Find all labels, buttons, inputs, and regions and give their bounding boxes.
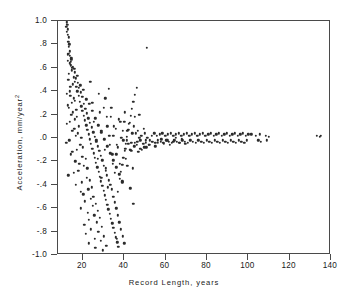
scatter-point bbox=[87, 117, 89, 119]
scatter-point bbox=[89, 179, 91, 181]
scatter-point bbox=[117, 246, 119, 248]
scatter-point bbox=[71, 83, 73, 85]
scatter-point bbox=[81, 181, 83, 183]
scatter-point bbox=[134, 132, 136, 134]
scatter-point bbox=[73, 118, 75, 120]
scatter-point bbox=[123, 150, 125, 152]
y-axis-title-text: Acceleration, mm/year bbox=[15, 98, 24, 190]
scatter-point bbox=[136, 86, 138, 88]
scatter-point bbox=[71, 130, 73, 132]
y-axis-tick-label: .8 bbox=[40, 39, 47, 48]
scatter-point bbox=[71, 102, 73, 104]
scatter-point bbox=[82, 115, 84, 117]
scatter-point bbox=[126, 165, 128, 167]
scatter-point bbox=[69, 153, 71, 155]
scatter-point bbox=[243, 141, 245, 143]
scatter-point bbox=[82, 146, 84, 148]
scatter-point bbox=[90, 186, 92, 188]
scatter-point bbox=[94, 117, 96, 119]
scatter-point bbox=[125, 158, 127, 160]
y-axis-tick bbox=[51, 160, 57, 161]
scatter-point bbox=[91, 110, 93, 112]
scatter-point bbox=[108, 134, 110, 136]
x-axis-tick-label: 20 bbox=[77, 261, 87, 270]
scatter-point bbox=[105, 244, 107, 246]
scatter-point bbox=[87, 188, 89, 190]
scatter-point bbox=[68, 139, 70, 141]
scatter-point bbox=[134, 116, 136, 118]
scatter-point bbox=[112, 195, 114, 197]
scatter-point bbox=[101, 226, 103, 228]
scatter-point bbox=[83, 223, 85, 225]
scatter-point bbox=[114, 201, 116, 203]
scatter-point bbox=[124, 111, 126, 113]
scatter-point bbox=[93, 214, 95, 216]
scatter-point bbox=[100, 154, 102, 156]
scatter-point bbox=[80, 207, 82, 209]
scatter-point bbox=[65, 141, 67, 143]
scatter-point bbox=[91, 205, 93, 207]
scatter-point bbox=[97, 209, 99, 211]
scatter-point bbox=[195, 141, 197, 143]
scatter-point bbox=[154, 145, 156, 147]
y-axis-tick bbox=[51, 184, 57, 185]
y-axis-tick bbox=[51, 114, 57, 115]
scatter-point bbox=[111, 222, 113, 224]
scatter-point bbox=[70, 113, 72, 115]
scatter-point bbox=[136, 140, 138, 142]
scatter-point bbox=[254, 134, 256, 136]
scatter-point bbox=[83, 165, 85, 167]
scatter-point bbox=[175, 137, 177, 139]
scatter-point bbox=[145, 146, 147, 148]
y-axis-tick bbox=[51, 20, 57, 21]
scatter-point bbox=[103, 138, 105, 140]
scatter-point bbox=[121, 164, 123, 166]
scatter-point bbox=[92, 152, 94, 154]
scatter-point bbox=[78, 125, 80, 127]
scatter-point bbox=[130, 115, 132, 117]
scatter-point bbox=[133, 125, 135, 127]
scatter-point bbox=[91, 102, 93, 104]
scatter-point bbox=[73, 71, 75, 73]
scatter-point bbox=[117, 214, 119, 216]
scatter-point bbox=[89, 122, 91, 124]
scatter-point bbox=[69, 95, 71, 97]
scatter-point bbox=[235, 141, 237, 143]
x-axis-tick bbox=[289, 254, 290, 260]
scatter-point bbox=[66, 123, 68, 125]
scatter-point bbox=[94, 247, 96, 249]
y-axis-tick-label: .4 bbox=[40, 86, 47, 95]
scatter-point bbox=[115, 166, 117, 168]
scatter-point bbox=[111, 153, 113, 155]
x-axis-tick bbox=[247, 254, 248, 260]
scatter-point bbox=[85, 177, 87, 179]
scatter-point bbox=[84, 108, 86, 110]
scatter-point bbox=[94, 237, 96, 239]
scatter-point bbox=[250, 133, 252, 135]
scatter-point bbox=[88, 103, 90, 105]
scatter-point bbox=[118, 221, 120, 223]
scatter-point bbox=[100, 240, 102, 242]
scatter-point bbox=[122, 139, 124, 141]
plot-frame bbox=[57, 20, 330, 254]
scatter-point bbox=[116, 237, 118, 239]
y-axis-tick bbox=[51, 43, 57, 44]
scatter-point bbox=[120, 171, 122, 173]
y-axis-tick-label: 1.0 bbox=[35, 16, 47, 25]
y-axis-tick-label: .6 bbox=[40, 62, 47, 71]
scatter-point bbox=[115, 153, 117, 155]
scatter-point bbox=[74, 160, 76, 162]
scatter-point bbox=[211, 141, 213, 143]
scatter-point bbox=[169, 144, 171, 146]
scatter-point bbox=[86, 212, 88, 214]
scatter-point bbox=[78, 86, 80, 88]
scatter-point bbox=[122, 130, 124, 132]
scatter-point bbox=[82, 89, 84, 91]
scatter-point bbox=[93, 120, 95, 122]
scatter-point bbox=[132, 167, 134, 169]
x-axis-tick-label: 80 bbox=[201, 261, 211, 270]
scatter-point bbox=[84, 158, 86, 160]
y-axis-tick-label: -.8 bbox=[37, 226, 47, 235]
scatter-point bbox=[98, 92, 100, 94]
scatter-point bbox=[90, 143, 92, 145]
